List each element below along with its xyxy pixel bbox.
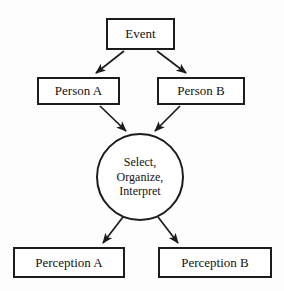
node-perception-a-label: Perception A — [35, 256, 103, 270]
edge-event-to-person-b — [157, 51, 186, 73]
edge-process-to-perception-a — [103, 217, 123, 243]
perception-flow-diagram: Event Person A Person B Select, Organize… — [0, 0, 284, 291]
node-person-b-label: Person B — [177, 84, 224, 98]
node-event-label: Event — [125, 27, 155, 41]
node-process-line-2: Organize, — [117, 170, 164, 185]
node-process-line-1: Select, — [124, 155, 156, 170]
node-person-a-label: Person A — [55, 84, 102, 98]
node-process-line-3: Interpret — [119, 184, 160, 199]
node-person-b: Person B — [157, 77, 245, 105]
node-event: Event — [106, 18, 175, 50]
edge-event-to-person-a — [96, 51, 124, 73]
node-process-circle: Select, Organize, Interpret — [96, 133, 184, 221]
node-person-a: Person A — [37, 77, 120, 105]
edge-person-a-to-process — [100, 106, 126, 131]
edge-process-to-perception-b — [158, 217, 178, 243]
node-perception-b-label: Perception B — [181, 256, 249, 270]
node-perception-b: Perception B — [158, 247, 272, 278]
edge-person-b-to-process — [155, 106, 180, 131]
node-perception-a: Perception A — [13, 247, 125, 278]
